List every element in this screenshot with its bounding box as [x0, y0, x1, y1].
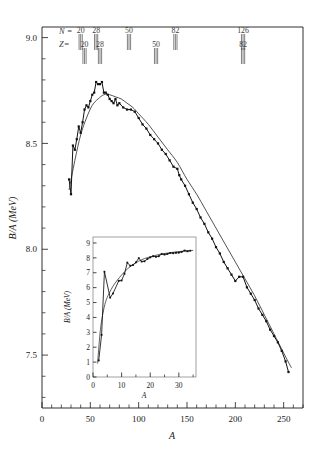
data-point [114, 98, 116, 100]
y-tick-label: 8.5 [26, 139, 38, 149]
magic-number-label: 82 [239, 40, 247, 49]
inset-plot-frame [93, 237, 196, 377]
data-point [157, 142, 159, 144]
data-point [169, 159, 171, 161]
data-point [246, 286, 248, 288]
x-axis-title: A [168, 430, 176, 441]
x-tick-label: 250 [277, 414, 291, 424]
data-point [91, 94, 93, 96]
magic-number-label: 50 [125, 26, 133, 35]
data-point [89, 100, 91, 102]
inset-data-point [104, 271, 106, 273]
data-point [277, 341, 279, 343]
inset-x-tick-label: 30 [175, 381, 183, 390]
inset-data-point [118, 280, 120, 282]
data-point [176, 168, 178, 170]
data-point [257, 307, 259, 309]
x-axis-ticks [42, 402, 303, 408]
inset-y-tick-label: 4 [86, 313, 90, 322]
y-tick-label: 7.5 [26, 350, 38, 360]
inset-data-point [132, 264, 134, 266]
inset-data-point [141, 261, 143, 263]
inset-y-tick-label: 9 [86, 239, 90, 248]
inset-y-tick-label: 5 [86, 298, 90, 307]
data-point [192, 202, 194, 204]
inset-data-point [189, 250, 191, 252]
data-point [130, 108, 132, 110]
data-point [196, 208, 198, 210]
inset-data-point [152, 255, 154, 257]
inset-data-point [175, 252, 177, 254]
data-point [103, 92, 105, 94]
data-point [70, 193, 72, 195]
data-point [273, 335, 275, 337]
inset-y-tick-label: 0 [86, 373, 90, 382]
chart-canvas: 7.58.08.59.0 050100150200250 20285082126… [0, 0, 331, 454]
data-point [134, 111, 136, 113]
x-tick-label: 0 [40, 414, 45, 424]
data-point [172, 166, 174, 168]
data-point [178, 174, 180, 176]
data-point [118, 102, 120, 104]
data-point [82, 121, 84, 123]
data-point [126, 108, 128, 110]
data-point [211, 238, 213, 240]
y-tick-label: 8.0 [26, 244, 38, 254]
data-point [145, 128, 147, 130]
inset-data-point [126, 262, 128, 264]
data-point [230, 274, 232, 276]
magic-number-labels: 2028508212620285082 [77, 26, 249, 49]
inset-x-tick-label: 10 [118, 381, 126, 390]
magic-number-label: 126 [237, 26, 249, 35]
data-point [112, 102, 114, 104]
data-point [250, 293, 252, 295]
data-point [93, 92, 95, 94]
data-point [85, 104, 87, 106]
magic-number-label: 28 [96, 40, 104, 49]
data-point [141, 123, 143, 125]
inset-data-point [166, 253, 168, 255]
inset-y-tick-label: 7 [86, 268, 90, 277]
inset-y-axis-tick-labels: 0123456789 [86, 239, 90, 382]
inset-y-tick-label: 6 [86, 283, 90, 292]
inset-data-point [169, 252, 171, 254]
data-point [219, 252, 221, 254]
data-point [109, 98, 111, 100]
data-point [199, 216, 201, 218]
inset-y-axis-title: B/A (MeV) [63, 290, 72, 323]
data-point [153, 138, 155, 140]
inset-data-point [112, 293, 114, 295]
data-point [215, 246, 217, 248]
magic-key-neutron: N = [58, 27, 72, 36]
magic-number-markers [79, 34, 245, 64]
data-point [116, 104, 118, 106]
data-point [138, 117, 140, 119]
data-point [265, 320, 267, 322]
x-axis-tick-labels: 050100150200250 [40, 414, 291, 424]
magic-number-label: 82 [172, 26, 180, 35]
inset-x-tick-label: 0 [91, 381, 95, 390]
inset-data-point [178, 252, 180, 254]
inset-y-tick-label: 8 [86, 254, 90, 263]
inset-data-point [184, 250, 186, 252]
data-point [180, 178, 182, 180]
data-point [254, 299, 256, 301]
binding-energy-figure: 7.58.08.59.0 050100150200250 20285082126… [0, 0, 331, 454]
x-tick-label: 50 [86, 414, 96, 424]
inset-data-point [138, 257, 140, 259]
inset-y-tick-label: 3 [86, 328, 90, 337]
data-point [188, 193, 190, 195]
inset-data-point [164, 254, 166, 256]
inset-data-point [149, 257, 151, 259]
x-tick-label: 150 [180, 414, 194, 424]
inset-data-point [187, 250, 189, 252]
inset-x-tick-label: 20 [146, 381, 154, 390]
data-point [122, 106, 124, 108]
data-point [72, 144, 74, 146]
data-point [242, 276, 244, 278]
inset-y-tick-label: 2 [86, 343, 90, 352]
data-point [184, 185, 186, 187]
inset-data-point [124, 273, 126, 275]
x-tick-label: 100 [132, 414, 146, 424]
magic-number-label: 50 [152, 40, 160, 49]
